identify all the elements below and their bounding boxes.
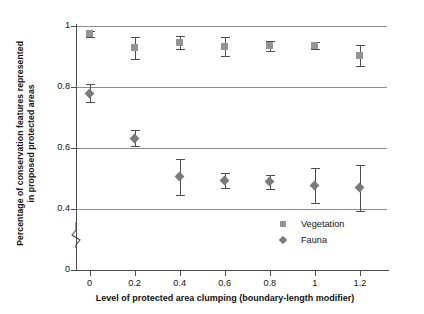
y-axis-tick-label: 1 xyxy=(46,20,70,30)
error-bar-cap xyxy=(221,188,230,189)
x-axis-tick xyxy=(225,270,226,276)
y-axis-tick xyxy=(71,270,77,271)
legend-item-vegetation: Vegetation xyxy=(276,216,396,232)
data-point-fauna xyxy=(130,133,140,143)
error-bar-cap xyxy=(266,51,275,52)
chart-figure: Percentage of conservation features repr… xyxy=(0,0,424,314)
error-bar-cap xyxy=(356,211,365,212)
data-point-fauna xyxy=(355,183,365,193)
x-axis-tick xyxy=(315,270,316,276)
legend-label-fauna: Fauna xyxy=(301,235,327,245)
x-axis-tick-label: 0.2 xyxy=(115,278,155,288)
error-bar-cap xyxy=(221,56,230,57)
error-bar-cap xyxy=(356,165,365,166)
data-point-fauna xyxy=(220,175,230,185)
data-point-vegetation xyxy=(176,39,183,46)
data-point-fauna xyxy=(265,177,275,187)
error-bar-cap xyxy=(311,203,320,204)
y-axis-title: Percentage of conservation features repr… xyxy=(15,7,38,279)
x-axis-tick-label: 0.8 xyxy=(250,278,290,288)
y-axis-tick xyxy=(71,209,77,210)
data-point-fauna xyxy=(175,172,185,182)
error-bar-cap xyxy=(356,66,365,67)
data-point-vegetation xyxy=(356,52,363,59)
error-bar-cap xyxy=(356,45,365,46)
gridline xyxy=(76,209,387,210)
x-axis-tick-label: 0 xyxy=(70,278,110,288)
error-bar-cap xyxy=(131,37,140,38)
x-axis-title: Level of protected area clumping (bounda… xyxy=(36,293,414,303)
legend-label-vegetation: Vegetation xyxy=(301,219,344,229)
data-point-vegetation xyxy=(86,30,93,37)
y-axis-tick-labels: 00.40.60.81 xyxy=(44,0,70,300)
error-bar-cap xyxy=(266,189,275,190)
x-axis-tick xyxy=(90,270,91,276)
gridline xyxy=(76,26,387,27)
x-axis-tick-label: 0.4 xyxy=(160,278,200,288)
axis-break-icon xyxy=(70,222,84,248)
x-axis-tick xyxy=(180,270,181,276)
error-bar-cap xyxy=(311,168,320,169)
gridline xyxy=(76,148,387,149)
error-bar-cap xyxy=(176,36,185,37)
data-point-vegetation xyxy=(311,42,318,49)
data-point-fauna xyxy=(310,181,320,191)
error-bar-cap xyxy=(86,102,95,103)
error-bar-cap xyxy=(176,195,185,196)
data-point-vegetation xyxy=(266,42,273,49)
x-axis-tick xyxy=(360,270,361,276)
y-axis-title-line-1: Percentage of conservation features repr… xyxy=(15,41,25,246)
error-bar-cap xyxy=(131,59,140,60)
error-bar-cap xyxy=(176,49,185,50)
x-axis-tick-label: 1.2 xyxy=(340,278,380,288)
x-axis-line xyxy=(76,270,389,271)
x-axis-tick-label: 1 xyxy=(295,278,335,288)
data-point-vegetation xyxy=(221,43,228,50)
x-axis-tick xyxy=(135,270,136,276)
error-bar-cap xyxy=(311,49,320,50)
gridline xyxy=(76,87,387,88)
error-bar-cap xyxy=(131,130,140,131)
square-marker-icon xyxy=(276,221,290,227)
diamond-marker-icon xyxy=(276,237,290,243)
chart-legend: Vegetation Fauna xyxy=(276,216,396,248)
y-axis-tick-label: 0 xyxy=(46,264,70,274)
y-axis-title-container: Percentage of conservation features repr… xyxy=(0,0,46,290)
error-bar-cap xyxy=(221,173,230,174)
data-point-fauna xyxy=(85,88,95,98)
error-bar-cap xyxy=(86,84,95,85)
x-axis-tick-label: 0.6 xyxy=(205,278,245,288)
x-axis-tick xyxy=(270,270,271,276)
y-axis-tick xyxy=(71,148,77,149)
y-axis-tick xyxy=(71,87,77,88)
legend-item-fauna: Fauna xyxy=(276,232,396,248)
y-axis-tick-label: 0.4 xyxy=(46,203,70,213)
error-bar-cap xyxy=(131,146,140,147)
data-point-vegetation xyxy=(131,44,138,51)
y-axis-title-line-2: in proposed protected areas xyxy=(26,84,36,202)
y-axis-tick-label: 0.6 xyxy=(46,142,70,152)
error-bar-cap xyxy=(266,175,275,176)
error-bar-cap xyxy=(176,159,185,160)
error-bar-cap xyxy=(221,37,230,38)
y-axis-tick xyxy=(71,26,77,27)
y-axis-tick-label: 0.8 xyxy=(46,81,70,91)
